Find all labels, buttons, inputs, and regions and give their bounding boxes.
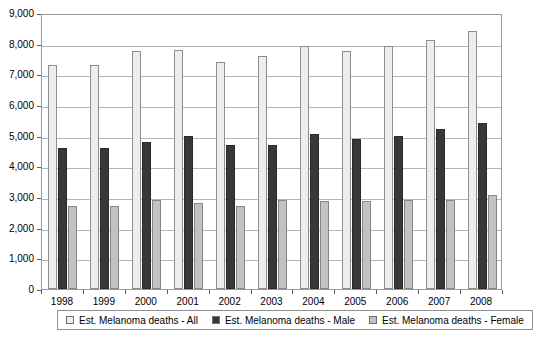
bar bbox=[278, 200, 287, 289]
bar bbox=[68, 206, 77, 289]
y-axis-tick-label: 0 bbox=[0, 285, 34, 295]
bar bbox=[268, 145, 277, 289]
x-axis-tick-label: 2001 bbox=[167, 296, 209, 307]
x-axis-tick-label: 2006 bbox=[376, 296, 418, 307]
bar bbox=[468, 31, 477, 289]
x-axis-tick-mark bbox=[83, 290, 84, 294]
bar bbox=[48, 65, 57, 289]
y-axis-tick-label: 9,000 bbox=[0, 9, 34, 19]
x-axis-tick-mark bbox=[334, 290, 335, 294]
x-axis-tick-label: 2002 bbox=[209, 296, 251, 307]
bar bbox=[110, 206, 119, 289]
bar bbox=[394, 136, 403, 289]
legend-entry: Est. Melanoma deaths - Female bbox=[369, 315, 524, 326]
x-axis-tick-label: 1999 bbox=[83, 296, 125, 307]
legend-label: Est. Melanoma deaths - Female bbox=[382, 315, 524, 326]
bar bbox=[342, 51, 351, 289]
x-axis-tick-label: 2004 bbox=[292, 296, 334, 307]
bar bbox=[478, 123, 487, 289]
x-axis-tick-label: 2008 bbox=[460, 296, 502, 307]
y-axis-tick-label: 2,000 bbox=[0, 224, 34, 234]
bar bbox=[310, 134, 319, 289]
x-axis-tick-mark bbox=[41, 290, 42, 294]
y-axis-tick-label: 1,000 bbox=[0, 254, 34, 264]
legend-label: Est. Melanoma deaths - Male bbox=[225, 315, 355, 326]
bar bbox=[362, 201, 371, 289]
x-axis-tick-mark bbox=[209, 290, 210, 294]
x-axis-tick-label: 2003 bbox=[251, 296, 293, 307]
x-axis-tick-mark bbox=[125, 290, 126, 294]
legend-entry: Est. Melanoma deaths - All bbox=[66, 315, 198, 326]
x-axis-tick-label: 2007 bbox=[418, 296, 460, 307]
x-axis-tick-label: 1998 bbox=[41, 296, 83, 307]
bar bbox=[384, 46, 393, 289]
bar bbox=[194, 203, 203, 289]
bar bbox=[132, 51, 141, 289]
y-axis-tick-label: 5,000 bbox=[0, 132, 34, 142]
bar bbox=[184, 136, 193, 289]
x-axis-tick-mark bbox=[251, 290, 252, 294]
x-axis-tick-label: 2005 bbox=[334, 296, 376, 307]
bar bbox=[404, 200, 413, 289]
x-axis-tick-mark bbox=[418, 290, 419, 294]
bar bbox=[300, 46, 309, 289]
y-axis-tick-label: 3,000 bbox=[0, 193, 34, 203]
bar bbox=[58, 148, 67, 289]
x-axis-tick-mark bbox=[502, 290, 503, 294]
x-axis-tick-mark bbox=[167, 290, 168, 294]
y-axis-tick-label: 8,000 bbox=[0, 40, 34, 50]
legend-swatch-icon bbox=[66, 316, 74, 324]
legend-swatch-icon bbox=[212, 316, 220, 324]
bar bbox=[100, 148, 109, 289]
x-axis-tick-mark bbox=[376, 290, 377, 294]
plot-area bbox=[41, 14, 502, 290]
legend-swatch-icon bbox=[369, 316, 377, 324]
bar bbox=[236, 206, 245, 289]
x-axis-tick-label: 2000 bbox=[125, 296, 167, 307]
bar bbox=[320, 201, 329, 289]
bar bbox=[142, 142, 151, 289]
bar bbox=[436, 129, 445, 289]
bar bbox=[174, 50, 183, 289]
legend-label: Est. Melanoma deaths - All bbox=[79, 315, 198, 326]
bar bbox=[352, 139, 361, 289]
bar bbox=[226, 145, 235, 289]
x-axis-tick-mark bbox=[460, 290, 461, 294]
y-axis-tick-label: 6,000 bbox=[0, 101, 34, 111]
bar bbox=[90, 65, 99, 289]
x-axis-tick-mark bbox=[292, 290, 293, 294]
bar bbox=[258, 56, 267, 289]
bar bbox=[446, 200, 455, 289]
y-axis-tick-label: 7,000 bbox=[0, 70, 34, 80]
chart-legend: Est. Melanoma deaths - AllEst. Melanoma … bbox=[57, 310, 533, 330]
bar bbox=[152, 200, 161, 289]
y-axis-tick-label: 4,000 bbox=[0, 162, 34, 172]
bar bbox=[488, 195, 497, 289]
bar bbox=[426, 40, 435, 289]
bar bbox=[216, 62, 225, 289]
legend-entry: Est. Melanoma deaths - Male bbox=[212, 315, 355, 326]
